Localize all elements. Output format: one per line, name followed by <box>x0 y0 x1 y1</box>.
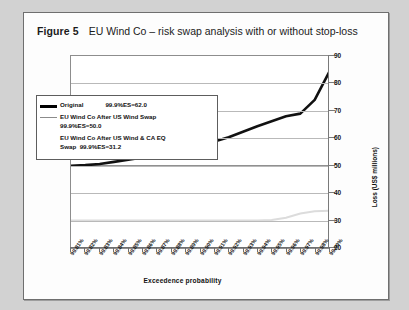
figure-label: Figure 5 <box>37 25 79 37</box>
figure-title: EU Wind Co – risk swap analysis with or … <box>89 25 358 37</box>
chart-area: 2030405060708090 Loss (US$ millions) 99.… <box>36 51 376 289</box>
value-axis-label: 50 <box>334 161 350 168</box>
legend-stat-original: 99.9%ES=62.0 <box>105 101 146 110</box>
us-wind-ca-eq-swap-line <box>71 211 329 221</box>
gridline <box>71 166 329 167</box>
value-axis-label: 70 <box>334 106 350 113</box>
legend-swatch-original <box>40 105 57 108</box>
gridline <box>71 193 329 194</box>
y-axis-title: Loss (US$ millions) <box>371 147 378 207</box>
figure-caption: Figure 5EU Wind Co – risk swap analysis … <box>37 25 377 37</box>
value-axis-label: 30 <box>334 216 350 223</box>
legend-item-us-wind-ca-eq-swap: EU Wind Co After US Wind & CA EQ Swap 99… <box>40 134 213 152</box>
legend-swatch-us-wind-swap <box>40 117 57 119</box>
value-axis <box>328 55 329 247</box>
value-axis-label: 40 <box>334 189 350 196</box>
legend-label-original: Original99.9%ES=62.0 <box>60 101 147 110</box>
legend-name-original: Original <box>60 101 83 108</box>
legend-stat-us-wind-ca-eq-swap: 99.9%ES=31.2 <box>80 143 121 150</box>
legend-label-us-wind-swap: EU Wind Co After US Wind Swap99.9%ES=50.… <box>60 113 156 131</box>
legend-label-us-wind-ca-eq-swap: EU Wind Co After US Wind & CA EQ Swap 99… <box>60 134 213 152</box>
legend-item-us-wind-swap: EU Wind Co After US Wind Swap99.9%ES=50.… <box>40 113 213 131</box>
gridline <box>71 83 329 84</box>
legend-stat-us-wind-swap: 99.9%ES=50.0 <box>60 122 101 129</box>
value-axis-label: 90 <box>334 52 350 59</box>
legend-swatch-us-wind-ca-eq-swap <box>40 138 57 140</box>
value-axis-label: 60 <box>334 134 350 141</box>
legend-name-us-wind-swap: EU Wind Co After US Wind Swap <box>60 113 156 120</box>
category-axis-labels: 99.81%99.82%99.83%99.84%99.85%99.86%99.8… <box>70 253 329 297</box>
figure-page-panel: Figure 5EU Wind Co – risk swap analysis … <box>23 12 389 300</box>
screenshot-root: Figure 5EU Wind Co – risk swap analysis … <box>0 0 409 310</box>
legend-item-original: Original99.9%ES=62.0 <box>40 101 213 110</box>
gridline <box>71 221 329 222</box>
value-axis-label: 80 <box>334 79 350 86</box>
x-axis-title: Exceedence probability <box>36 277 329 284</box>
chart-legend: Original99.9%ES=62.0 EU Wind Co After US… <box>36 95 218 160</box>
